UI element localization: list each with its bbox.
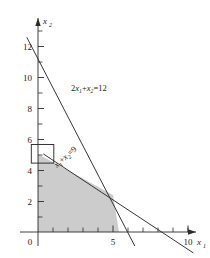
- equation-label-1: 2x1+x2=12: [71, 83, 107, 94]
- x-tick-label-10: 10: [184, 237, 194, 247]
- y-tick-label-2: 2: [28, 197, 33, 207]
- y-tick-label-6: 6: [28, 135, 33, 145]
- x-tick-label-5: 5: [111, 237, 116, 247]
- y-tick-label-12: 12: [23, 42, 32, 52]
- y-axis-title-sub: 2: [49, 22, 52, 28]
- x-tick-label-0: 0: [28, 237, 33, 247]
- x-axis-title-var: x: [196, 237, 201, 247]
- y-tick-label-8: 8: [28, 104, 33, 114]
- x-axis-title-sub: 1: [203, 243, 206, 249]
- x-axis-tick-labels: 0 5 10: [28, 237, 193, 247]
- svg-text:2x1+x2=12: 2x1+x2=12: [71, 83, 107, 94]
- y-tick-label-10: 10: [23, 73, 33, 83]
- svg-text:x1+x2=9: x1+x2=9: [51, 144, 79, 171]
- plot-canvas: 2 4 6 8 10 12 0 5 10 x 2 x 1 2x1+x2=12: [0, 0, 210, 258]
- y-tick-label-4: 4: [28, 166, 33, 176]
- y-axis-title: x 2: [42, 16, 52, 28]
- equation-label-2: x1+x2=9: [51, 144, 79, 171]
- linear-programming-figure: 2 4 6 8 10 12 0 5 10 x 2 x 1 2x1+x2=12: [0, 0, 210, 258]
- x-axis-title: x 1: [196, 237, 206, 249]
- y-axis-title-var: x: [42, 16, 47, 26]
- eq1-value: 12: [98, 83, 107, 93]
- y-axis-tick-labels: 2 4 6 8 10 12: [23, 42, 33, 207]
